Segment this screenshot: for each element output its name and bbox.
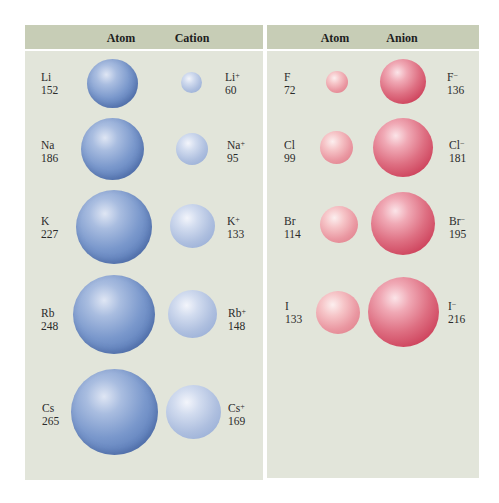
cation-sphere-k [170,204,215,248]
anion-panel-body [267,51,479,478]
column-header-atom-right: Atom [321,31,350,46]
atom-label-k: K227 [41,215,58,241]
cation-label-rb: Rb+148 [228,307,246,333]
atom-label-i: I133 [285,300,302,326]
atom-label-li: Li152 [41,71,58,97]
anion-panel-header [267,25,479,49]
atom-sphere-k [76,190,152,264]
atom-sphere-na [81,118,144,180]
anion-label-br: Br−195 [449,215,466,241]
anion-label-cl: Cl−181 [449,139,466,165]
column-header-atom: Atom [107,31,136,46]
cation-sphere-na [176,133,208,165]
atom-sphere-f [326,71,348,93]
anion-sphere-br [371,192,435,255]
atom-label-na: Na186 [41,139,58,165]
cation-sphere-cs [166,385,221,439]
cation-label-na: Na+95 [227,139,245,165]
cation-label-cs: Cs+169 [228,402,245,428]
atom-sphere-rb [73,275,155,354]
anion-sphere-i [368,277,439,347]
anion-label-f: F−136 [447,71,464,97]
anion-sphere-cl [373,118,433,177]
atom-label-br: Br114 [284,215,301,241]
atom-label-f: F72 [284,71,296,97]
atom-sphere-br [320,206,358,243]
anion-sphere-f [380,59,426,104]
column-header-cation: Cation [175,31,210,46]
column-header-anion: Anion [386,31,417,46]
atom-sphere-cl [320,131,353,164]
atom-sphere-li [87,59,138,108]
cation-sphere-rb [168,290,217,338]
cation-sphere-li [181,72,202,93]
cation-label-li: Li+60 [225,71,240,97]
atom-label-cl: Cl99 [284,139,296,165]
atom-label-rb: Rb248 [41,307,58,333]
atom-sphere-cs [71,369,158,455]
anion-label-i: I−216 [448,300,465,326]
atom-sphere-i [316,291,360,334]
atom-label-cs: Cs265 [42,402,59,428]
cation-panel-header [25,25,263,49]
cation-label-k: K+133 [227,215,244,241]
